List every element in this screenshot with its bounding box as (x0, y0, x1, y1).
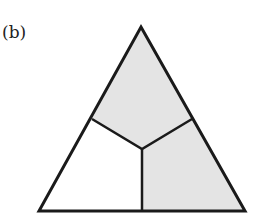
triangle-diagram (0, 0, 255, 221)
